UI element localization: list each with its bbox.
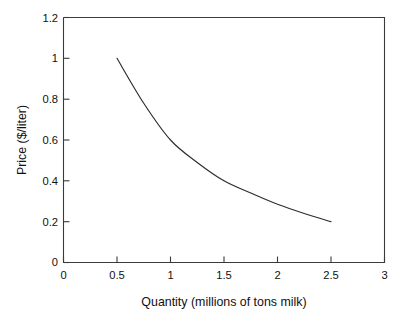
x-tick-label-3: 3 (381, 269, 387, 281)
y-axis-title: Price ($/liter) (15, 105, 29, 175)
x-tick-label-0: 0 (60, 269, 66, 281)
y-tick-label-0-6: 0.6 (42, 134, 58, 146)
x-axis-title: Quantity (millions of tons milk) (141, 295, 306, 309)
demand-curve-chart: 0 0.5 1 1.5 2 2.5 3 0 0.2 0.4 0.6 0.8 1 … (0, 0, 408, 323)
x-tick-label-0-5: 0.5 (109, 269, 125, 281)
y-tick-label-0-4: 0.4 (42, 175, 58, 187)
y-tick-label-0-8: 0.8 (42, 93, 58, 105)
x-tick-label-1-5: 1.5 (216, 269, 232, 281)
y-tick-label-1-2: 1.2 (42, 12, 58, 24)
y-tick-label-0-2: 0.2 (42, 216, 58, 228)
x-tick-label-2: 2 (274, 269, 280, 281)
chart-figure: 0 0.5 1 1.5 2 2.5 3 0 0.2 0.4 0.6 0.8 1 … (0, 0, 408, 323)
x-axis-tick-labels: 0 0.5 1 1.5 2 2.5 3 (60, 269, 387, 281)
y-tick-label-0: 0 (52, 256, 58, 268)
y-tick-label-1: 1 (52, 52, 58, 64)
x-tick-label-1: 1 (167, 269, 173, 281)
x-tick-label-2-5: 2.5 (323, 269, 339, 281)
